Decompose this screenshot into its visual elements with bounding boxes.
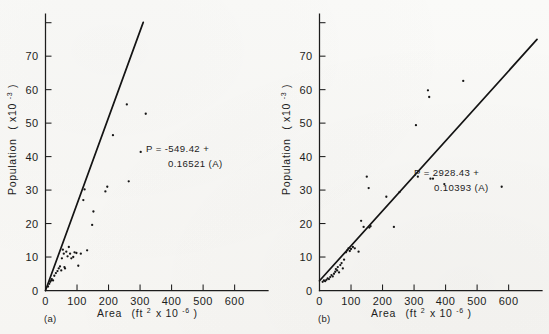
- x-tick-label-500: 500: [467, 295, 487, 307]
- chart-svg-a: 010203040506070 0100200300400500600 Popu…: [0, 0, 274, 334]
- data-point: [333, 273, 335, 275]
- data-point: [332, 275, 334, 277]
- y-tick-label-group-b: 010203040506070: [299, 50, 312, 296]
- x-tick-group-b: [320, 285, 509, 291]
- regression-line-a: [46, 22, 144, 290]
- y-axis-title-a: Population ( x10 -3 ): [2, 84, 18, 195]
- y-tick-label-60: 60: [299, 84, 312, 96]
- data-point: [343, 259, 345, 261]
- data-point: [462, 80, 464, 82]
- data-point: [336, 269, 338, 271]
- x-axis-title-mid-b: x 10: [430, 307, 453, 319]
- y-axis-title-name-a: Population: [6, 138, 18, 195]
- data-point: [385, 196, 387, 198]
- data-point: [501, 186, 503, 188]
- chart-panel-b: 010203040506070 0100200300400500600 Popu…: [274, 0, 548, 334]
- y-tick-label-group-a: 010203040506070: [25, 50, 38, 296]
- y-tick-label-10: 10: [299, 251, 312, 263]
- x-axis-title-close-b: ): [467, 307, 471, 319]
- data-point: [128, 180, 130, 182]
- data-point: [64, 267, 66, 269]
- x-tick-label-0: 0: [42, 295, 49, 307]
- y-tick-group-b: [320, 23, 326, 291]
- plot-axes-b: [320, 14, 543, 291]
- data-point: [112, 134, 114, 136]
- y-tick-label-20: 20: [299, 218, 312, 230]
- data-point: [77, 265, 79, 267]
- equation-line1-a: P = -549.42 +: [146, 143, 209, 154]
- data-point: [60, 269, 62, 271]
- x-tick-label-group-b: 0100200300400500600: [316, 295, 518, 307]
- data-point-group-a: [47, 103, 147, 287]
- chart-svg-b: 010203040506070 0100200300400500600 Popu…: [274, 0, 548, 334]
- y-tick-label-50: 50: [299, 117, 312, 129]
- data-point: [80, 253, 82, 255]
- x-axis-title-exp2-b: -6: [456, 307, 464, 314]
- y-axis-title-b: Population ( x10 -3 ): [276, 84, 292, 195]
- equation-line2-a: 0.16521 (A): [168, 158, 223, 169]
- y-tick-label-60: 60: [25, 84, 38, 96]
- data-point: [366, 176, 368, 178]
- data-point: [357, 251, 359, 253]
- data-point: [69, 253, 71, 255]
- y-tick-label-10: 10: [25, 251, 38, 263]
- data-point: [350, 248, 352, 250]
- data-point: [354, 247, 356, 249]
- data-point: [140, 151, 142, 153]
- regression-line-b: [320, 39, 538, 280]
- data-point: [362, 226, 364, 228]
- y-axis-title-exponent-b: -3: [280, 92, 287, 100]
- data-point: [62, 249, 64, 251]
- data-point: [72, 256, 74, 258]
- y-axis-title-open-b: ( x10: [280, 103, 292, 130]
- data-point: [393, 226, 395, 228]
- data-point: [360, 220, 362, 222]
- x-axis-title-exp1-b: 2: [421, 307, 426, 314]
- data-point: [106, 186, 108, 188]
- x-tick-label-100: 100: [341, 295, 361, 307]
- y-tick-label-40: 40: [299, 151, 312, 163]
- data-point: [145, 113, 147, 115]
- data-point: [56, 270, 58, 272]
- data-point: [91, 224, 93, 226]
- data-point: [126, 103, 128, 105]
- x-tick-group-a: [46, 285, 235, 291]
- data-point: [58, 267, 60, 269]
- y-tick-label-50: 50: [25, 117, 38, 129]
- data-point: [55, 272, 57, 274]
- x-tick-label-600: 600: [499, 295, 519, 307]
- data-point: [339, 264, 341, 266]
- data-point: [427, 89, 429, 91]
- data-point: [104, 190, 106, 192]
- x-tick-label-400: 400: [162, 295, 182, 307]
- y-tick-label-0: 0: [306, 285, 313, 297]
- x-axis-title-open-a: (ft: [132, 307, 143, 319]
- x-tick-label-group-a: 0100200300400500600: [42, 295, 244, 307]
- x-tick-label-0: 0: [316, 295, 323, 307]
- data-point: [338, 271, 340, 273]
- y-axis-title-close-a: ): [6, 84, 18, 88]
- y-axis-title-close-b: ): [280, 84, 292, 88]
- y-tick-label-30: 30: [299, 184, 312, 196]
- y-tick-label-0: 0: [32, 285, 39, 297]
- x-axis-title-exp2-a: -6: [182, 307, 190, 314]
- data-point: [334, 271, 336, 273]
- data-point: [328, 278, 330, 280]
- x-axis-title-name-b: Area: [371, 307, 396, 319]
- data-point: [368, 187, 370, 189]
- y-tick-label-20: 20: [25, 218, 38, 230]
- x-tick-label-300: 300: [404, 295, 424, 307]
- x-tick-label-600: 600: [225, 295, 245, 307]
- x-tick-label-200: 200: [99, 295, 119, 307]
- y-tick-group-a: [46, 23, 52, 291]
- data-point: [70, 257, 72, 259]
- data-point: [59, 265, 61, 267]
- x-axis-title-mid-a: x 10: [156, 307, 179, 319]
- panel-label-a: (a): [44, 313, 57, 324]
- y-axis-title-exponent-a: -3: [6, 92, 13, 100]
- data-point: [82, 199, 84, 201]
- data-point: [68, 246, 70, 248]
- equation-line2-b: 0.10393 (A): [434, 182, 489, 193]
- data-point: [352, 246, 354, 248]
- x-tick-label-100: 100: [67, 295, 87, 307]
